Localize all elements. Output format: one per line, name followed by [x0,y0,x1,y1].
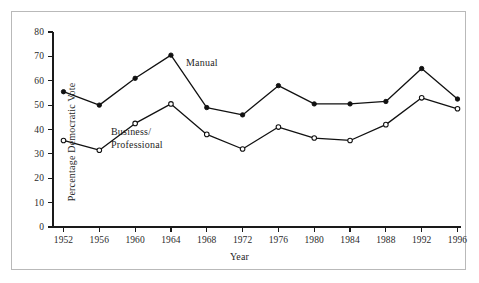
x-tick-label: 1984 [340,235,359,245]
x-tick-label: 1976 [269,235,288,245]
x-tick-label: 1952 [54,235,73,245]
y-tick-label: 30 [20,149,44,159]
axes [48,32,461,232]
x-tick-label: 1996 [448,235,467,245]
y-tick-label: 60 [20,76,44,86]
x-tick-label: 1992 [412,235,431,245]
y-tick-label: 50 [20,100,44,110]
x-tick-label: 1956 [90,235,109,245]
x-tick-label: 1988 [376,235,395,245]
x-tick-label: 1972 [233,235,252,245]
y-tick-label: 70 [20,51,44,61]
series-label-business-professional: Business/ Professional [111,126,163,152]
y-tick-label: 0 [20,222,44,232]
y-tick-label: 20 [20,173,44,183]
y-tick-label: 40 [20,125,44,135]
y-tick-label: 10 [20,198,44,208]
x-tick-label: 1964 [161,235,180,245]
y-axis-title: Percentage Democratic Vote [66,82,77,201]
series-label-manual: Manual [186,57,218,70]
x-tick-label: 1960 [125,235,144,245]
x-tick-label: 1980 [305,235,324,245]
x-tick-label: 1968 [197,235,216,245]
figure-container: 01020304050607080 1952195619601964196819… [0,0,479,283]
y-tick-label: 80 [20,27,44,37]
x-axis-title: Year [0,251,479,262]
